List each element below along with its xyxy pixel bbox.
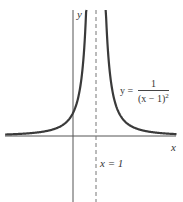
y-axis-label: y (77, 9, 82, 20)
equation-exponent: 2 (165, 92, 169, 100)
curve-right-branch (106, 10, 177, 134)
equation-numerator: 1 (138, 78, 169, 91)
equation-denominator-text: (x − 1) (138, 93, 165, 104)
asymptote-label: x = 1 (100, 158, 123, 169)
equation-lhs: y = (120, 86, 133, 96)
x-axis-label: x (171, 142, 176, 153)
equation-fraction: 1 (x − 1)2 (138, 78, 169, 104)
equation-denominator: (x − 1)2 (138, 91, 169, 104)
graph-figure: y x x = 1 y = 1 (x − 1)2 (0, 0, 183, 202)
curve-left-branch (5, 10, 86, 135)
